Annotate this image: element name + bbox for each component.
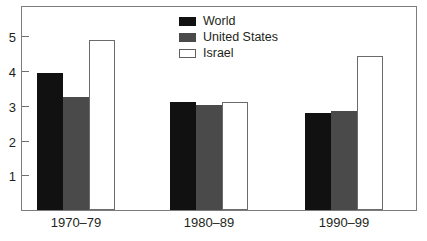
y-axis-tick-label: 5 [9, 31, 16, 44]
legend-item-israel: Israel [179, 46, 278, 61]
bar-chart: 12345 1970–791980–891990–99 World United… [0, 0, 427, 241]
bar-israel-1970-79 [89, 40, 115, 210]
bar-united-states-1980-89 [196, 105, 222, 210]
legend-label-united-states: United States [203, 31, 278, 44]
legend-label-israel: Israel [203, 47, 234, 60]
y-axis-tick-label: 1 [9, 170, 16, 183]
bar-world-1990-99 [305, 113, 331, 210]
legend-item-world: World [179, 14, 278, 29]
x-axis-tick-label: 1970–79 [51, 216, 102, 229]
bar-united-states-1970-79 [63, 97, 89, 210]
y-axis-tick-label: 4 [9, 66, 16, 79]
legend-swatch-united-states-icon [179, 33, 196, 42]
y-axis-tick-label: 3 [9, 100, 16, 113]
bar-world-1970-79 [37, 73, 63, 210]
bar-israel-1990-99 [357, 56, 383, 210]
legend-swatch-world-icon [179, 17, 196, 26]
x-axis-tick-label: 1980–89 [184, 216, 235, 229]
legend-label-world: World [203, 15, 235, 28]
legend-swatch-israel-icon [179, 49, 196, 58]
y-axis-tick-label: 2 [9, 135, 16, 148]
bar-world-1980-89 [170, 102, 196, 210]
chart-legend: World United States Israel [179, 14, 278, 62]
legend-item-united-states: United States [179, 30, 278, 45]
x-axis-tick-label: 1990–99 [319, 216, 370, 229]
bar-united-states-1990-99 [331, 111, 357, 210]
bar-israel-1980-89 [222, 102, 248, 210]
